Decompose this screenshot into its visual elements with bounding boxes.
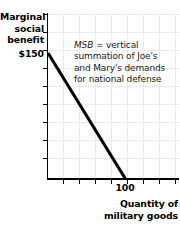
plot-area xyxy=(0,0,180,228)
annotation-line-4: for national defense xyxy=(74,74,178,85)
x-tick-label-100: 100 xyxy=(108,182,142,193)
x-axis-title-line-2: military goods xyxy=(62,210,178,222)
x-axis-title-line-1: Quantity of xyxy=(62,198,178,210)
msb-annotation: MSB = vertical summation of Joe's and Ma… xyxy=(74,40,178,85)
msb-chart-figure: Marginal social benefit $150 xyxy=(0,0,180,228)
annotation-line-1: MSB = vertical xyxy=(74,40,178,51)
x-axis-title: Quantity of military goods xyxy=(62,198,178,221)
annotation-line-1-rest: = vertical xyxy=(93,40,138,50)
annotation-line-3: and Mary's demands xyxy=(74,63,178,74)
annotation-msb-label: MSB xyxy=(74,40,93,50)
grid-vertical xyxy=(64,14,176,179)
y-axis-ticks xyxy=(43,15,47,159)
annotation-line-2: summation of Joe's xyxy=(74,51,178,62)
